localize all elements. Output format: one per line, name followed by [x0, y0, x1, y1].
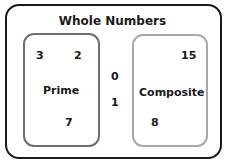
diagram-title: Whole Numbers — [0, 14, 225, 28]
outside-element: 1 — [111, 96, 119, 109]
composite-element: 15 — [181, 49, 196, 62]
prime-element: 3 — [36, 49, 44, 62]
outside-element: 0 — [111, 70, 119, 83]
composite-label: Composite — [139, 86, 205, 99]
composite-element: 8 — [151, 116, 159, 129]
prime-element: 7 — [65, 116, 73, 129]
prime-element: 2 — [74, 49, 82, 62]
prime-label: Prime — [43, 84, 79, 97]
